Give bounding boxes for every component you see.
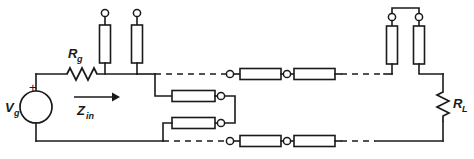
- source-voltage-subscript: g: [13, 108, 20, 118]
- terminal-top-right-2-icon: [415, 13, 422, 20]
- source-plus-sign: +: [29, 80, 37, 95]
- terminal-series-top-1-icon: [226, 70, 233, 77]
- terminal-shunt-middle-2-icon: [217, 119, 224, 126]
- input-impedance-subscript: in: [86, 111, 95, 121]
- right-shunt-resistor-2-body: [414, 26, 425, 64]
- load-resistor-RL-symbol: [437, 92, 449, 122]
- terminal-series-bottom-2-icon: [283, 137, 290, 144]
- wire-top-to-shunt-branch: [155, 74, 172, 96]
- terminal-top-right-1-icon: [388, 13, 395, 20]
- left-shunt-resistor-2: [132, 9, 143, 74]
- terminal-top-left-2-icon: [133, 9, 140, 16]
- series-resistor-subscript: g: [76, 54, 83, 64]
- zin-annotation: Z in: [74, 93, 120, 122]
- series-resistor-Rg-symbol: [67, 68, 97, 80]
- wire-res-r2-to-load-rail: [419, 64, 443, 74]
- circuit-schematic: + − V g R g Z in: [0, 0, 474, 159]
- left-shunt-resistor-1: [100, 9, 111, 74]
- shunt-box-middle-1-body: [172, 91, 215, 102]
- left-shunt-resistor-1-body: [100, 25, 111, 63]
- circuit-diagram-figure: + − V g R g Z in: [0, 0, 474, 159]
- terminal-series-bottom-1-icon: [226, 137, 233, 144]
- right-shunt-resistors: [387, 8, 444, 74]
- right-shunt-resistor-1-body: [387, 26, 398, 64]
- terminal-shunt-middle-1-icon: [217, 92, 224, 99]
- left-shunt-resistor-2-body: [132, 25, 143, 63]
- load-resistor-group: R L: [437, 74, 468, 141]
- bottom-rail: [36, 136, 443, 147]
- series-resistor-Rg-group: R g: [36, 46, 137, 80]
- wire-shunt-interconnect: [225, 96, 235, 123]
- series-box-top-1-body: [240, 69, 281, 80]
- terminal-top-left-1-icon: [101, 9, 108, 16]
- series-box-bottom-2-body: [294, 136, 335, 147]
- series-box-top-2-body: [294, 69, 335, 80]
- zin-arrow-head: [112, 93, 120, 102]
- source-minus-sign: −: [30, 115, 38, 130]
- series-box-bottom-1-body: [240, 136, 281, 147]
- wire-shunt-2-to-bottom-rail: [163, 123, 172, 141]
- load-resistance-subscript: L: [462, 104, 468, 114]
- source-branch: + − V g: [5, 74, 52, 141]
- middle-shunt-branch: [163, 91, 235, 142]
- input-impedance-label: Z: [76, 103, 86, 118]
- shunt-box-middle-2-body: [172, 118, 215, 129]
- terminal-series-top-2-icon: [283, 70, 290, 77]
